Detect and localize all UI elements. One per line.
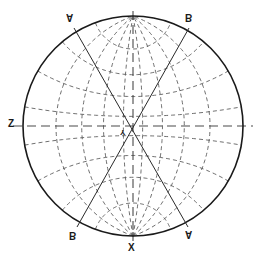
label-b-bottom-left: B <box>69 230 76 240</box>
label-a-bottom-right: A <box>185 229 192 239</box>
label-y-center: Y <box>120 128 125 136</box>
stereographic-net-svg <box>0 0 256 262</box>
principal-axes <box>13 11 253 241</box>
label-b-top-right: B <box>185 12 192 22</box>
figure-canvas: A B Z Y B A X <box>0 0 256 262</box>
great-circle-traces <box>74 28 189 227</box>
label-z-axis: Z <box>8 119 14 129</box>
label-a-top-left: A <box>66 12 73 22</box>
label-x-axis: X <box>128 243 135 253</box>
